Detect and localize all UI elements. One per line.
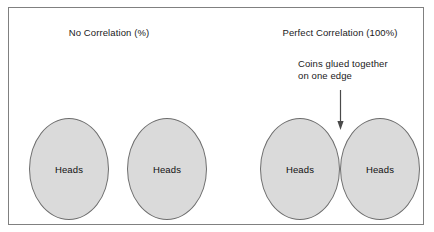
coin-label: Heads bbox=[341, 164, 419, 175]
perfect-correlation-title: Perfect Correlation (100%) bbox=[282, 27, 397, 38]
coin-label: Heads bbox=[128, 164, 206, 175]
no-correlation-title: No Correlation (%) bbox=[69, 27, 149, 38]
coin-perfect-correlation-left: Heads bbox=[260, 118, 340, 220]
figure-panel: No Correlation (%) Perfect Correlation (… bbox=[8, 7, 424, 225]
arrow-down-icon bbox=[333, 90, 349, 132]
coin-no-correlation-right: Heads bbox=[127, 118, 207, 220]
coin-label: Heads bbox=[261, 164, 339, 175]
coin-perfect-correlation-right: Heads bbox=[340, 118, 420, 220]
coin-label: Heads bbox=[30, 164, 108, 175]
coin-no-correlation-left: Heads bbox=[29, 118, 109, 220]
correlation-coins-figure: No Correlation (%) Perfect Correlation (… bbox=[0, 0, 434, 232]
annotation-line-1: Coins glued together bbox=[298, 58, 388, 70]
glued-coins-annotation: Coins glued together on one edge bbox=[298, 58, 388, 82]
annotation-line-2: on one edge bbox=[298, 70, 388, 82]
